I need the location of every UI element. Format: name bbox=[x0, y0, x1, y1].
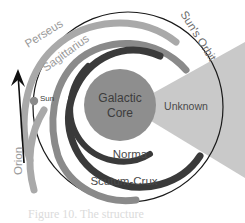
label-galactic-core-line1: Galactic bbox=[98, 91, 141, 105]
label-sun: Sun bbox=[40, 94, 54, 103]
label-suns-orbit: Sun's Orbit bbox=[178, 9, 219, 64]
label-galactic-core-line2: Core bbox=[107, 106, 133, 120]
label-scutum-crux: Scutum-Crux bbox=[90, 175, 157, 187]
arm-orion bbox=[30, 110, 44, 190]
label-orion: Orion bbox=[12, 147, 24, 175]
galaxy-svg: Galactic Core Unknown Sun Perseus Sagitt… bbox=[0, 0, 245, 223]
label-norma: Norma bbox=[113, 148, 148, 160]
label-unknown: Unknown bbox=[164, 100, 208, 112]
sun-marker bbox=[30, 97, 38, 105]
galactic-core bbox=[84, 69, 156, 141]
galaxy-diagram: Galactic Core Unknown Sun Perseus Sagitt… bbox=[0, 0, 245, 223]
